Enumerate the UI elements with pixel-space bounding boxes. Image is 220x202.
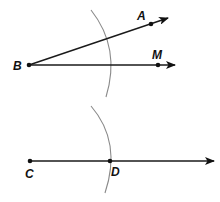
point-B [27, 63, 32, 68]
ray-BA [29, 18, 168, 65]
point-C [28, 159, 33, 164]
arc-centered-C [91, 106, 111, 193]
label-C: C [25, 167, 34, 181]
top-figure-angle-ABM: A B M [13, 9, 175, 97]
point-M [156, 63, 161, 68]
point-A [149, 22, 154, 27]
point-D [108, 159, 113, 164]
label-B: B [13, 59, 22, 73]
label-M: M [152, 48, 163, 62]
arc-centered-B [91, 10, 111, 97]
label-D: D [111, 165, 120, 179]
angle-construction-diagram: A B M C D [0, 0, 220, 202]
bottom-figure-ray-CD: C D [25, 106, 214, 193]
label-A: A [136, 9, 146, 23]
